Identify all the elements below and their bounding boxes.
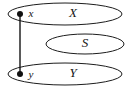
set-ellipse-x (8, 3, 122, 25)
diagram-canvas: x X S y Y (0, 0, 129, 90)
point-dot-x (17, 11, 23, 17)
point-dot-y (17, 71, 23, 77)
set-label-x: X (68, 5, 78, 20)
set-label-s: S (82, 35, 89, 50)
set-membership-diagram: x X S y Y (0, 0, 129, 90)
point-label-x: x (28, 7, 34, 19)
set-ellipse-y (8, 63, 122, 85)
set-label-y: Y (69, 65, 78, 80)
point-label-y: y (28, 68, 34, 80)
